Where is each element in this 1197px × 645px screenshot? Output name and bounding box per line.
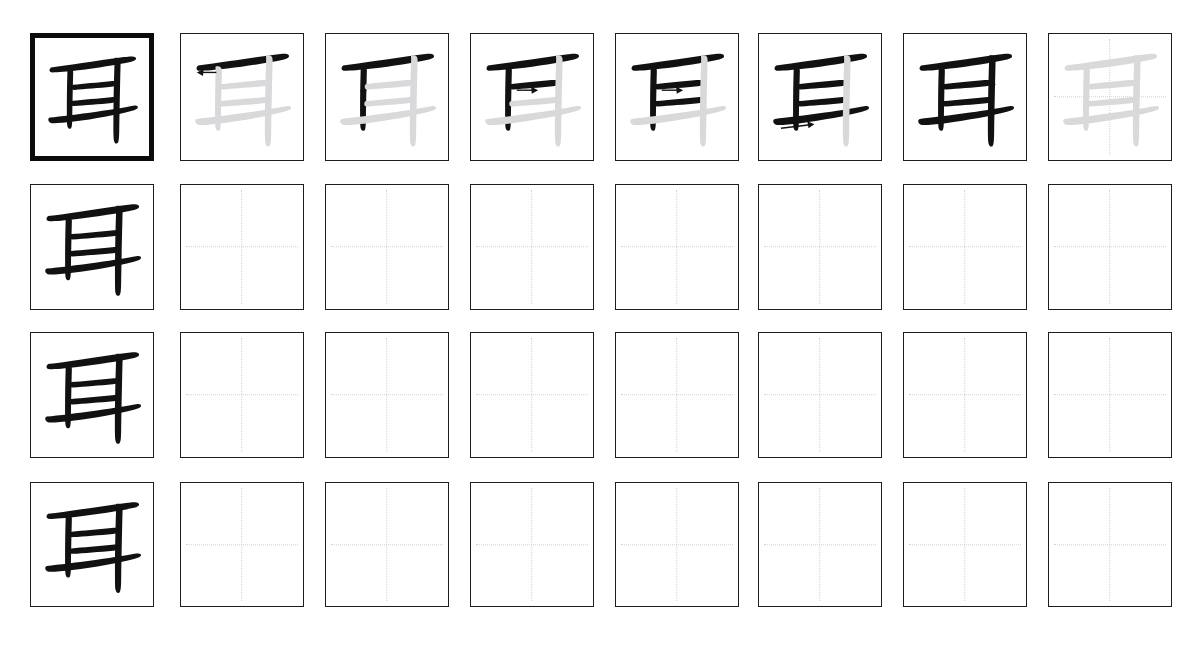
horizontal-guide-line [186,246,298,247]
practice-cell-r2-c4[interactable] [470,184,594,310]
stroke-6 [700,55,708,146]
practice-cell-r4-c8[interactable] [1048,482,1172,607]
vertical-guide-line [819,190,820,304]
stroke-6 [115,206,123,296]
vertical-guide-line [386,338,387,452]
practice-cell-r4-c1[interactable] [30,482,154,607]
practice-cell-r2-c3[interactable] [325,184,449,310]
stroke-3 [655,80,705,90]
vertical-guide-line [241,488,242,601]
horizontal-guide-line [331,544,443,545]
stroke-3 [71,81,118,90]
stroke-4 [942,97,993,107]
stroke-5 [45,256,141,275]
stroke-5 [1063,106,1159,125]
practice-cell-r1-c6[interactable] [758,33,882,161]
stroke-4 [654,97,705,107]
stroke-6 [555,55,563,146]
model-character-glyph [31,333,153,457]
practice-cell-r1-c1[interactable] [30,33,154,161]
horizontal-guide-line [621,246,733,247]
practice-cell-r3-c3[interactable] [325,332,449,458]
vertical-guide-line [531,488,532,601]
vertical-guide-line [964,488,965,601]
practice-cell-r1-c7[interactable] [903,33,1027,161]
stroke-step-glyph [471,34,593,160]
stroke-4 [509,97,560,107]
horizontal-guide-line [909,544,1021,545]
practice-cell-r4-c2[interactable] [180,482,304,607]
horizontal-guide-line [1054,394,1166,395]
vertical-guide-line [531,338,532,452]
stroke-3 [70,230,120,239]
practice-cell-r3-c5[interactable] [615,332,739,458]
horizontal-guide-line [909,246,1021,247]
practice-cell-r2-c1[interactable] [30,184,154,310]
horizontal-guide-line [186,544,298,545]
practice-cell-r4-c3[interactable] [325,482,449,607]
vertical-guide-line [1109,190,1110,304]
horizontal-guide-line [621,544,733,545]
stroke-step-glyph [181,34,303,160]
stroke-4 [69,545,120,554]
practice-cell-r3-c8[interactable] [1048,332,1172,458]
stroke-step-glyph [759,34,881,160]
model-character-glyph [31,483,153,606]
stroke-3 [70,528,120,537]
vertical-guide-line [676,338,677,452]
practice-cell-r2-c6[interactable] [758,184,882,310]
stroke-4 [364,97,415,107]
stroke-4 [69,395,120,404]
stroke-1 [632,54,725,71]
vertical-guide-line [676,190,677,304]
stroke-1 [47,204,140,221]
stroke-6 [115,504,123,593]
practice-cell-r2-c7[interactable] [903,184,1027,310]
practice-cell-r1-c5[interactable] [615,33,739,161]
vertical-guide-line [1109,338,1110,452]
practice-cell-r1-c8[interactable] [1048,33,1172,161]
stroke-1 [342,54,435,71]
stroke-5 [630,106,726,125]
practice-cell-r2-c8[interactable] [1048,184,1172,310]
stroke-6 [410,55,418,146]
practice-cell-r3-c7[interactable] [903,332,1027,458]
horizontal-guide-line [476,394,588,395]
stroke-3 [70,378,120,387]
stroke-1 [920,54,1013,71]
horizontal-guide-line [621,394,733,395]
stroke-1 [1065,54,1158,71]
vertical-guide-line [676,488,677,601]
stroke-3 [365,80,415,90]
stroke-step-glyph [616,34,738,160]
practice-cell-r1-c4[interactable] [470,33,594,161]
practice-cell-r2-c2[interactable] [180,184,304,310]
stroke-5 [485,106,581,125]
horizontal-guide-line [476,544,588,545]
practice-cell-r1-c3[interactable] [325,33,449,161]
stroke-3 [1088,80,1138,90]
stroke-5 [918,106,1014,125]
practice-cell-r4-c6[interactable] [758,482,882,607]
stroke-1 [487,54,580,71]
stroke-4 [71,97,119,106]
stroke-6 [1133,55,1141,146]
horizontal-guide-line [186,394,298,395]
practice-cell-r4-c5[interactable] [615,482,739,607]
horizontal-guide-line [476,246,588,247]
practice-cell-r2-c5[interactable] [615,184,739,310]
model-character-glyph [31,185,153,309]
practice-cell-r3-c2[interactable] [180,332,304,458]
stroke-3 [798,80,848,90]
practice-cell-r4-c7[interactable] [903,482,1027,607]
practice-cell-r3-c1[interactable] [30,332,154,458]
practice-cell-r1-c2[interactable] [180,33,304,161]
practice-cell-r3-c4[interactable] [470,332,594,458]
vertical-guide-line [386,488,387,601]
trace-character-glyph [1049,34,1171,160]
stroke-direction-arrow-head [807,121,814,128]
practice-cell-r3-c6[interactable] [758,332,882,458]
practice-cell-r4-c4[interactable] [470,482,594,607]
vertical-guide-line [241,338,242,452]
stroke-1 [197,54,290,71]
